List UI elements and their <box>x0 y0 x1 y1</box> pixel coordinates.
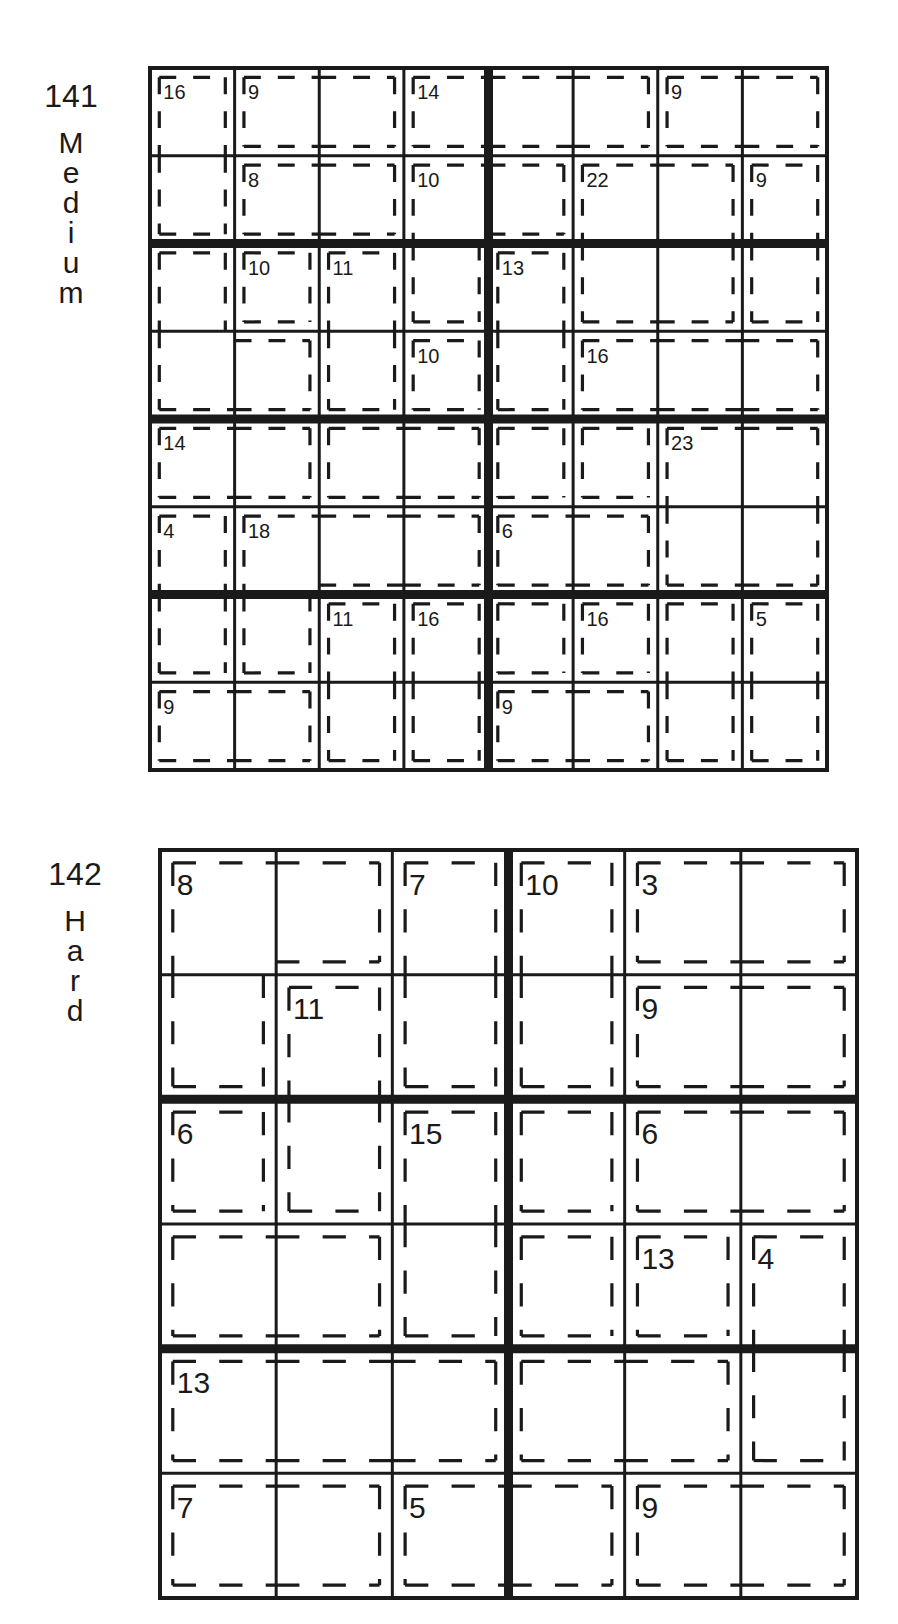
cage-sum-clue: 3 <box>641 868 658 901</box>
cage-sum-clue: 18 <box>248 520 270 542</box>
cage-sum-clue: 16 <box>586 608 608 630</box>
grid-cell[interactable] <box>276 850 392 975</box>
grid-cell[interactable] <box>741 850 857 975</box>
cage-sum-clue: 8 <box>248 169 259 191</box>
cage-sum-clue: 6 <box>502 520 513 542</box>
grid-cell[interactable] <box>235 682 320 770</box>
grid-cell[interactable] <box>573 68 658 156</box>
grid-cell[interactable] <box>150 156 235 244</box>
grid-cell[interactable] <box>489 595 574 683</box>
grid-cell[interactable] <box>509 1473 625 1598</box>
grid-cell[interactable] <box>404 419 489 507</box>
cage-sum-clue: 14 <box>417 81 439 103</box>
grid-cell[interactable] <box>319 682 404 770</box>
grid-cell[interactable] <box>319 419 404 507</box>
cage-sum-clue: 11 <box>333 257 354 279</box>
grid-cell[interactable] <box>276 1349 392 1474</box>
grid-cell[interactable] <box>742 331 827 419</box>
puzzle-number: 142 <box>40 856 110 892</box>
difficulty-letter: a <box>40 936 110 966</box>
grid-cell[interactable] <box>658 156 743 244</box>
grid-cell[interactable] <box>489 331 574 419</box>
cage-sum-clue: 7 <box>409 868 426 901</box>
grid-cell[interactable] <box>392 975 508 1100</box>
difficulty-letter: m <box>36 278 106 308</box>
cage-sum-clue: 9 <box>248 81 259 103</box>
difficulty-letter: H <box>40 906 110 936</box>
grid-cell[interactable] <box>150 595 235 683</box>
grid-cell[interactable] <box>509 975 625 1100</box>
grid-cell[interactable] <box>741 1349 857 1474</box>
grid-canvas: 169149810229101113101614234186111616599 <box>150 68 827 770</box>
grid-cell[interactable] <box>742 244 827 332</box>
difficulty-letter: d <box>40 996 110 1026</box>
cage-sum-clue: 13 <box>641 1242 674 1275</box>
cage-sum-clue: 13 <box>177 1366 210 1399</box>
grid-cell[interactable] <box>573 419 658 507</box>
difficulty-letter: M <box>36 128 106 158</box>
grid-cell[interactable] <box>319 156 404 244</box>
cage-sum-clue: 11 <box>333 608 354 630</box>
difficulty-label: M e d i u m <box>36 128 106 308</box>
grid-cell[interactable] <box>658 331 743 419</box>
grid-cell[interactable] <box>150 244 235 332</box>
cage-sum-clue: 16 <box>586 345 608 367</box>
grid-cell[interactable] <box>742 682 827 770</box>
killer-sudoku-grid[interactable]: 169149810229101113101614234186111616599 <box>150 68 827 770</box>
grid-canvas: 87103119615613413759 <box>160 850 857 1598</box>
difficulty-letter: e <box>36 158 106 188</box>
grid-cell[interactable] <box>509 1224 625 1349</box>
grid-cell[interactable] <box>276 1224 392 1349</box>
grid-cell[interactable] <box>742 68 827 156</box>
grid-cell[interactable] <box>742 419 827 507</box>
grid-cell[interactable] <box>489 156 574 244</box>
puzzle-label: 142 H a r d <box>40 856 110 1026</box>
grid-cell[interactable] <box>658 507 743 595</box>
difficulty-letter: u <box>36 248 106 278</box>
grid-cell[interactable] <box>160 975 276 1100</box>
cage-sum-clue: 10 <box>248 257 270 279</box>
cage-sum-clue: 22 <box>586 169 608 191</box>
grid-cell[interactable] <box>235 419 320 507</box>
grid-cell[interactable] <box>658 244 743 332</box>
grid-cell[interactable] <box>489 68 574 156</box>
grid-cell[interactable] <box>319 68 404 156</box>
grid-cell[interactable] <box>658 595 743 683</box>
grid-cell[interactable] <box>509 1099 625 1224</box>
cage-sum-clue: 9 <box>756 169 767 191</box>
cage-sum-clue: 16 <box>163 81 185 103</box>
cage-sum-clue: 9 <box>163 696 174 718</box>
grid-cell[interactable] <box>741 1473 857 1598</box>
grid-cell[interactable] <box>235 595 320 683</box>
grid-cell[interactable] <box>489 419 574 507</box>
grid-cell[interactable] <box>150 331 235 419</box>
cage-sum-clue: 4 <box>163 520 174 542</box>
cage-sum-clue: 10 <box>525 868 558 901</box>
killer-sudoku-grid[interactable]: 87103119615613413759 <box>160 850 857 1598</box>
grid-cell[interactable] <box>573 682 658 770</box>
grid-cell[interactable] <box>235 331 320 419</box>
difficulty-letter: r <box>40 966 110 996</box>
cage-sum-clue: 7 <box>177 1491 194 1524</box>
difficulty-letter: d <box>36 188 106 218</box>
grid-cell[interactable] <box>625 1349 741 1474</box>
grid-cell[interactable] <box>404 682 489 770</box>
grid-cell[interactable] <box>742 507 827 595</box>
grid-cell[interactable] <box>319 331 404 419</box>
grid-cell[interactable] <box>276 1099 392 1224</box>
grid-cell[interactable] <box>741 975 857 1100</box>
grid-cell[interactable] <box>276 1473 392 1598</box>
grid-cell[interactable] <box>658 682 743 770</box>
grid-cell[interactable] <box>404 244 489 332</box>
grid-cell[interactable] <box>573 507 658 595</box>
grid-cell[interactable] <box>392 1224 508 1349</box>
grid-cell[interactable] <box>319 507 404 595</box>
grid-cell[interactable] <box>392 1349 508 1474</box>
grid-cell[interactable] <box>741 1099 857 1224</box>
grid-cell[interactable] <box>160 1224 276 1349</box>
grid-cell[interactable] <box>509 1349 625 1474</box>
puzzle-number: 141 <box>36 78 106 114</box>
grid-cell[interactable] <box>573 244 658 332</box>
grid-cell[interactable] <box>404 507 489 595</box>
difficulty-letter: i <box>36 218 106 248</box>
